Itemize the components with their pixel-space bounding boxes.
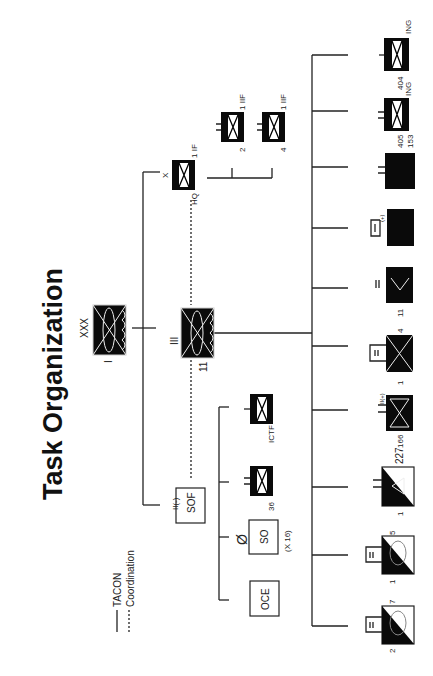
unit-405[interactable]: ING 405 153 — [378, 82, 415, 148]
unit-oce[interactable]: OCE — [250, 581, 279, 616]
svg-text:ICTF: ICTF — [267, 425, 276, 443]
svg-text:ING: ING — [404, 82, 413, 96]
unit-plus[interactable]: (+) — [371, 209, 414, 246]
svg-text:2: 2 — [238, 147, 247, 152]
page-title: Task Organization — [38, 268, 68, 500]
svg-text:SO: SO — [259, 529, 270, 544]
unit-division-11[interactable]: III 11 — [169, 308, 214, 372]
svg-text:227: 227 — [394, 447, 405, 464]
svg-text:36: 36 — [267, 502, 276, 511]
division-designation: 11 — [198, 361, 209, 372]
svg-text:5: 5 — [388, 530, 397, 535]
unit-227[interactable]: 227 1 — [373, 447, 414, 516]
unit-1-inf[interactable]: 1 — [370, 335, 413, 385]
svg-text:II(+): II(+) — [379, 393, 385, 404]
svg-text:1: 1 — [396, 380, 405, 385]
unit-brigade-hq[interactable]: X 1 IF HQ — [161, 144, 199, 205]
svg-text:1: 1 — [396, 511, 405, 516]
svg-text:153: 153 — [406, 134, 415, 148]
svg-text:1: 1 — [388, 579, 397, 584]
svg-text:4: 4 — [279, 147, 288, 152]
division-echelon: III — [169, 337, 180, 345]
unit-1-5[interactable]: 5 1 — [366, 530, 414, 584]
svg-text:1 IIF: 1 IIF — [279, 94, 288, 110]
svg-text:OCE: OCE — [260, 588, 271, 610]
brigade-echelon: X — [161, 172, 170, 178]
brigade-designation: 1 IF — [190, 144, 199, 158]
brigade-suffix: HQ — [190, 193, 199, 205]
svg-text:1 IIF: 1 IIF — [238, 94, 247, 110]
corps-designation: I — [103, 360, 114, 363]
unit-bn-4[interactable]: 1 IIF 4 — [257, 94, 288, 152]
unit-4-11[interactable]: 11 4 — [376, 267, 413, 333]
unit-ing-404[interactable]: ING 404 — [379, 20, 413, 90]
unit-solid[interactable] — [378, 153, 415, 189]
svg-text:II(-): II(-) — [171, 497, 180, 510]
unit-2-7[interactable]: 7 2 — [366, 599, 414, 653]
legend: TACON Coordination — [112, 550, 136, 632]
unit-so[interactable]: SO Ø (X 16) — [234, 520, 292, 554]
unit-sof[interactable]: SOF II(-) — [171, 488, 205, 523]
unit-ictf[interactable]: ICTF — [244, 394, 276, 443]
unit-166[interactable]: II(+) 166 — [378, 393, 413, 448]
svg-text:(+): (+) — [379, 214, 385, 222]
unit-corps[interactable]: XXX I — [79, 305, 126, 363]
legend-coordination: Coordination — [125, 550, 136, 607]
unit-sof-36[interactable]: 36 — [244, 466, 276, 511]
svg-text:4: 4 — [396, 328, 405, 333]
task-organization-diagram: Task Organization TACON Coordination — [0, 0, 433, 676]
svg-text:SOF: SOF — [186, 492, 197, 513]
unit-bn-2[interactable]: 1 IIF 2 — [216, 94, 247, 152]
svg-text:405: 405 — [396, 134, 405, 148]
legend-tacon: TACON — [112, 573, 123, 607]
svg-text:166: 166 — [396, 434, 405, 448]
svg-text:7: 7 — [388, 599, 397, 604]
svg-text:ING: ING — [404, 20, 413, 34]
svg-text:(X 16): (X 16) — [283, 530, 292, 552]
corps-echelon: XXX — [79, 318, 90, 338]
svg-text:2: 2 — [388, 648, 397, 653]
svg-text:11: 11 — [396, 308, 405, 317]
svg-text:Ø: Ø — [234, 534, 250, 545]
